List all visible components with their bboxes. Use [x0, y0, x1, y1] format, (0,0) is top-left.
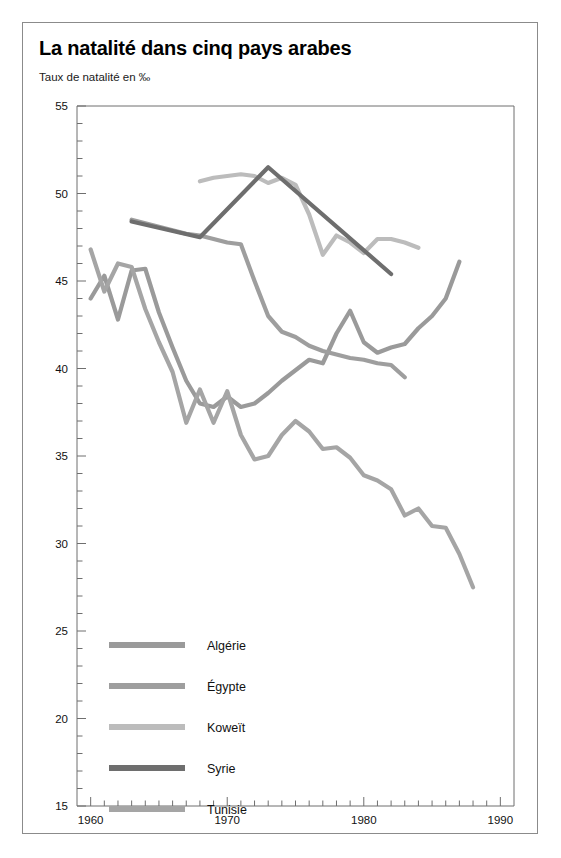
- x-tick-label: 1990: [488, 814, 514, 826]
- axis-frame: [77, 106, 514, 806]
- x-tick-label: 1980: [351, 814, 377, 826]
- y-axis-labels: 152025303540455055: [55, 100, 68, 812]
- y-tick-label: 30: [55, 538, 68, 550]
- series-line-syrie: [132, 167, 391, 274]
- y-tick-label: 35: [55, 450, 68, 462]
- y-tick-label: 25: [55, 625, 68, 637]
- chart-legend: AlgérieÉgypteKoweïtSyrieTunisie: [109, 639, 247, 817]
- y-tick-label: 50: [55, 188, 68, 200]
- data-series: [91, 167, 473, 587]
- line-chart: 152025303540455055 1960197019801990 Algé…: [23, 23, 539, 835]
- x-tick-label: 1960: [78, 814, 104, 826]
- x-axis-labels: 1960197019801990: [78, 814, 513, 826]
- y-tick-label: 15: [55, 800, 68, 812]
- plot-area: 152025303540455055 1960197019801990 Algé…: [23, 23, 539, 835]
- series-line-gypte: [132, 220, 405, 378]
- y-tick-label: 55: [55, 100, 68, 112]
- chart-figure: La natalité dans cinq pays arabes Taux d…: [22, 22, 538, 834]
- legend-label-algrie: Algérie: [207, 639, 246, 653]
- y-axis-ticks: [77, 106, 86, 806]
- y-tick-label: 40: [55, 363, 68, 375]
- legend-label-syrie: Syrie: [207, 762, 236, 776]
- y-tick-label: 20: [55, 713, 68, 725]
- y-tick-label: 45: [55, 275, 68, 287]
- series-line-tunisie: [91, 250, 473, 588]
- series-line-algrie: [91, 262, 460, 407]
- legend-label-gypte: Égypte: [207, 679, 246, 694]
- legend-label-kowet: Koweït: [207, 721, 246, 735]
- legend-label-tunisie: Tunisie: [207, 803, 247, 817]
- x-axis-ticks: [91, 797, 501, 806]
